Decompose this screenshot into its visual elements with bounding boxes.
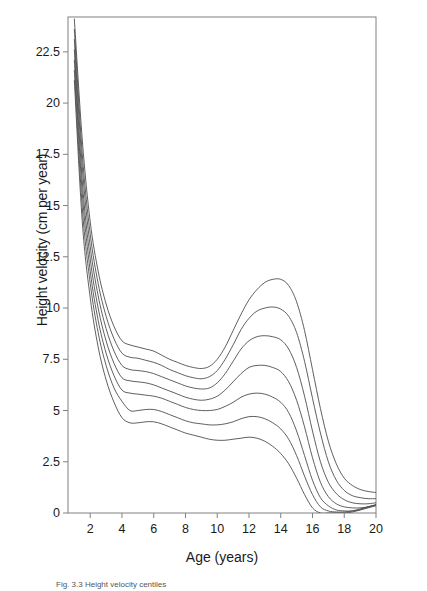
plot-frame bbox=[68, 17, 376, 513]
x-axis-label: Age (years) bbox=[68, 549, 376, 565]
centile-curve bbox=[74, 70, 376, 512]
y-tick-label: 10 bbox=[20, 301, 60, 315]
centile-curve bbox=[74, 29, 376, 498]
x-tick-label: 6 bbox=[137, 522, 171, 536]
y-tick-label: 20 bbox=[20, 96, 60, 110]
x-tick-label: 8 bbox=[168, 522, 202, 536]
x-tick-label: 10 bbox=[200, 522, 234, 536]
y-tick-label: 12.5 bbox=[20, 250, 60, 264]
x-tick-label: 4 bbox=[105, 522, 139, 536]
y-tick-label: 22.5 bbox=[20, 45, 60, 59]
y-tick-label: 17.5 bbox=[20, 147, 60, 161]
centile-curve bbox=[74, 50, 376, 508]
centile-curves bbox=[74, 19, 376, 513]
x-tick-label: 20 bbox=[359, 522, 393, 536]
height-velocity-chart-figure: Height velocity (cm per year) Age (years… bbox=[0, 0, 427, 591]
y-tick-label: 2.5 bbox=[20, 455, 60, 469]
figure-caption: Fig. 3.3 Height velocity centiles bbox=[56, 580, 416, 591]
y-tick-label: 0 bbox=[20, 506, 60, 520]
plot-area bbox=[0, 0, 427, 591]
y-tick-label: 15 bbox=[20, 199, 60, 213]
centile-curve bbox=[74, 40, 376, 504]
x-tick-label: 2 bbox=[73, 522, 107, 536]
y-tick-label: 7.5 bbox=[20, 352, 60, 366]
x-tick-label: 16 bbox=[295, 522, 329, 536]
x-tick-label: 18 bbox=[327, 522, 361, 536]
centile-curve bbox=[74, 19, 376, 492]
centile-curve bbox=[74, 60, 376, 511]
x-tick-label: 14 bbox=[264, 522, 298, 536]
y-axis-label: Height velocity (cm per year) bbox=[34, 90, 50, 390]
y-tick-label: 5 bbox=[20, 404, 60, 418]
x-tick-label: 12 bbox=[232, 522, 266, 536]
